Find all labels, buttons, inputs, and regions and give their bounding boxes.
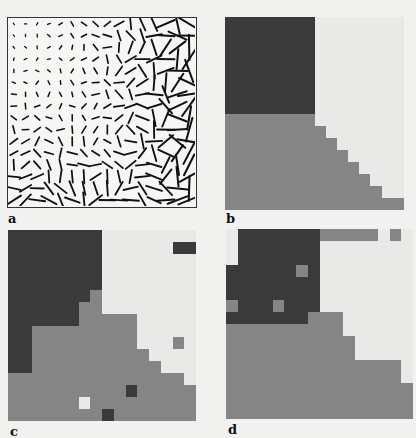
- segment-cell: [20, 254, 32, 266]
- segment-cell: [236, 126, 247, 138]
- segment-cell: [173, 314, 185, 326]
- segment-cell: [281, 65, 292, 77]
- segment-cell: [390, 383, 402, 395]
- segment-cell: [308, 265, 320, 277]
- segment-cell: [296, 253, 308, 265]
- segment-cell: [102, 254, 114, 266]
- segment-cell: [331, 229, 343, 241]
- segment-cell: [303, 89, 314, 101]
- segment-cell: [308, 348, 320, 360]
- segment-cell: [55, 397, 67, 409]
- segment-cell: [149, 409, 161, 421]
- segment-cell: [390, 265, 402, 277]
- segment-cell: [55, 373, 67, 385]
- segment-cell: [382, 162, 393, 174]
- segment-cell: [382, 65, 393, 77]
- segment-cell: [90, 373, 102, 385]
- segment-cell: [370, 65, 381, 77]
- segment-cell: [102, 397, 114, 409]
- segment-cell: [67, 326, 79, 338]
- segment-cell: [326, 29, 337, 41]
- segment-cell: [126, 397, 138, 409]
- segment-cell: [161, 254, 173, 266]
- segment-cell: [378, 300, 390, 312]
- segment-cell: [378, 312, 390, 324]
- segment-cell: [270, 65, 281, 77]
- segment-cell: [32, 349, 44, 361]
- segment-cell: [184, 385, 196, 397]
- segment-cell: [296, 300, 308, 312]
- segment-cell: [393, 65, 404, 77]
- segment-cell: [273, 253, 285, 265]
- segment-cell: [273, 324, 285, 336]
- segment-cell: [296, 383, 308, 395]
- segment-cell: [390, 372, 402, 384]
- segment-cell: [79, 230, 91, 242]
- segment-cell: [270, 53, 281, 65]
- segment-cell: [8, 385, 20, 397]
- segment-cell: [331, 312, 343, 324]
- segment-cell: [247, 114, 258, 126]
- segment-cell: [393, 162, 404, 174]
- segment-cell: [292, 198, 303, 210]
- segment-cell: [273, 312, 285, 324]
- panel-a-orientation-field: [7, 17, 197, 208]
- segment-cell: [247, 126, 258, 138]
- segment-cell: [303, 17, 314, 29]
- segment-cell: [184, 242, 196, 254]
- segment-cell: [390, 407, 402, 419]
- segment-cell: [236, 77, 247, 89]
- segment-cell: [43, 385, 55, 397]
- segment-cell: [114, 266, 126, 278]
- segment-cell: [79, 278, 91, 290]
- segment-cell: [401, 407, 413, 419]
- segment-cell: [225, 101, 236, 113]
- segment-cell: [236, 138, 247, 150]
- segment-cell: [315, 65, 326, 77]
- segment-cell: [261, 229, 273, 241]
- segment-cell: [236, 65, 247, 77]
- segment-cell: [149, 242, 161, 254]
- segment-cell: [393, 53, 404, 65]
- segment-cell: [20, 373, 32, 385]
- segment-cell: [20, 337, 32, 349]
- segment-cell: [226, 312, 238, 324]
- segment-cell: [43, 361, 55, 373]
- segment-cell: [382, 198, 393, 210]
- segment-cell: [126, 302, 138, 314]
- segment-cell: [261, 372, 273, 384]
- segment-cell: [315, 77, 326, 89]
- segment-cell: [355, 348, 367, 360]
- segment-cell: [270, 150, 281, 162]
- segment-cell: [281, 138, 292, 150]
- segment-cell: [173, 266, 185, 278]
- segment-cell: [370, 89, 381, 101]
- segment-cell: [337, 138, 348, 150]
- segment-cell: [247, 89, 258, 101]
- segment-cell: [331, 324, 343, 336]
- segment-cell: [359, 174, 370, 186]
- segment-cell: [43, 337, 55, 349]
- segment-cell: [270, 41, 281, 53]
- segment-cell: [43, 266, 55, 278]
- segment-cell: [370, 29, 381, 41]
- segment-cell: [270, 29, 281, 41]
- segment-cell: [303, 198, 314, 210]
- segment-cell: [43, 314, 55, 326]
- segment-cell: [238, 241, 250, 253]
- segment-cell: [382, 17, 393, 29]
- segment-cell: [326, 65, 337, 77]
- segment-cell: [320, 324, 332, 336]
- segment-cell: [370, 138, 381, 150]
- segment-cell: [126, 409, 138, 421]
- segment-cell: [79, 254, 91, 266]
- segment-cell: [315, 29, 326, 41]
- segment-cell: [126, 254, 138, 266]
- segment-cell: [284, 253, 296, 265]
- segment-cell: [337, 126, 348, 138]
- segment-cell: [401, 336, 413, 348]
- segment-cell: [90, 397, 102, 409]
- segment-cell: [348, 53, 359, 65]
- segment-cell: [326, 186, 337, 198]
- segment-cell: [296, 348, 308, 360]
